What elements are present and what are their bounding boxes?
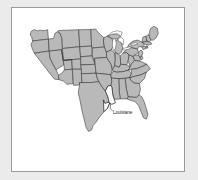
map-figure-frame: Louisiane [11,7,185,172]
state-south-dakota [80,46,93,57]
state-maine [149,26,158,40]
state-ohio [120,52,129,64]
state-wyoming [62,47,80,61]
state-kansas [81,64,96,73]
state-florida [127,95,148,119]
state-rhode-island [146,46,148,49]
map-label-louisiane: Louisiane [113,110,133,115]
state-indiana [115,52,121,67]
us-map-svg: Louisiane [12,8,184,171]
state-north-dakota [79,30,92,47]
state-connecticut [142,46,146,49]
state-arizona [58,69,73,84]
state-minnesota [91,29,105,48]
page-root: Louisiane [0,0,198,180]
states-layer [30,26,158,131]
